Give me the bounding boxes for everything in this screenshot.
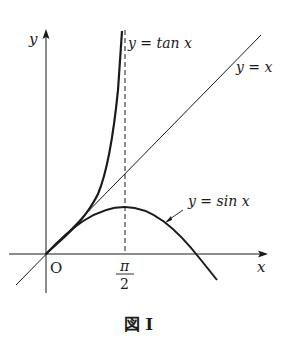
label-identity: y = x <box>235 59 273 75</box>
curve-sin <box>46 207 217 280</box>
pointer-arrow-icon <box>165 216 172 223</box>
sin-label-pointer <box>165 210 183 223</box>
label-sin: y = sin x <box>187 193 250 209</box>
diagram-canvas: y x O π 2 y = tan x y = x y = sin x 図 I <box>0 0 294 342</box>
y-axis-label: y <box>28 30 38 48</box>
tick-label-pi: π <box>119 258 130 274</box>
label-tan: y = tan x <box>127 35 192 51</box>
origin-label: O <box>50 259 62 277</box>
tick-label-2: 2 <box>120 276 129 292</box>
x-axis-label: x <box>257 258 266 276</box>
figure-caption: 図 I <box>124 315 153 334</box>
